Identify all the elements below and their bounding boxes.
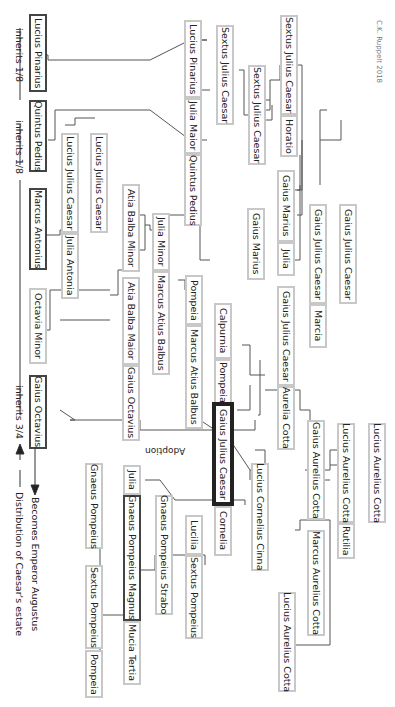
person-cornelia: Cornelia [214,506,232,556]
person-marcus-aurelius-cotta: Marcus Aurelius Cotta [307,530,325,636]
person-sextus-julius-caesar-3: Sextus Julius Caesar [216,25,234,125]
person-gnaeus-pompeius: Gnaeus Pompeius [85,463,103,549]
person-lucius-aurelius-cotta-3: Lucius Aurelius Cotta [278,592,296,692]
person-gaius-marius-2: Gaius Marius [247,208,265,280]
person-horatio: Horatio [280,115,298,157]
person-lucilia: Lucilia [185,515,203,555]
person-atia-balba-minor: Atia Balba Minor [122,184,140,272]
person-calpurnia: Calpurnia [214,303,232,359]
person-lucius-julius-caesar-2: Lucius Julius Caesar [61,133,79,233]
person-sextus-pompeius-2: Sextus Pompeius [85,565,103,649]
person-atia-balba-maior: Atia Balba Maior [122,277,140,365]
person-octavia-minor: Octavia Minor [29,288,47,364]
person-julia-antonia: Julia Antonia [61,233,79,299]
heir-gaius-octavius: Gaius Octavius [29,375,47,449]
person-gnaeus-pompeius-magnus: Gnaeus Pompeius Magnus [123,495,141,621]
person-gaius-julius-caesar-dictator: Gaius Julius Caesar [212,402,234,506]
person-lucius-aurelius-cotta-1: Lucius Aurelius Cotta [368,423,386,523]
person-lucius-pinarius-1: Lucius Pinarius [184,20,202,98]
person-gaius-julius-caesar-grandfather: Gaius Julius Caesar [339,204,357,304]
person-marcus-atius-balbus-2: Marcus Atius Balbus [185,325,203,429]
person-mucia-tertia: Mucia Tertia [123,621,141,685]
legend-becomes-augustus: Becomes Emperor Augustus [30,497,40,631]
person-sextus-pompeius-1: Sextus Pompeius [185,555,203,639]
person-gnaeus-pompeius-strabo: Gnaeus Pompeius Strabo [155,495,173,615]
person-gaius-julius-caesar-father: Gaius Julius Caesar [309,204,327,304]
heir-lucius-pinarius: Lucius Pinarius [29,14,47,92]
person-quintus-pedius-1: Quintus Pedius [184,154,202,226]
person-sextus-julius-caesar-1: Sextus Julius Caesar [280,15,298,115]
person-julia-2: Julia [123,465,141,495]
inherits-label-octavius: inherits 3/4 [14,385,24,439]
inherits-label-pedius: inherits 1/8 [14,120,24,174]
heir-quintus-pedius: Quintus Pedius [29,100,47,172]
heir-marcus-antonius: Marcus Antonius [29,188,47,270]
person-lucius-cornelius-cinna: Lucius Cornelius Cinna [251,463,269,571]
person-marcus-atius-balbus-1: Marcus Atius Balbus [152,271,170,375]
family-tree-diagram: C.K. Ruppelt 2018 Sextus Julius Caesar H… [0,0,395,707]
person-julia-maior: Julia Maior [184,98,202,154]
person-gaius-marius-1: Gaius Marius [277,170,295,242]
person-gaius-octavius-father: Gaius Octavius [122,365,140,441]
person-sextus-julius-caesar-2: Sextus Julius Caesar [248,65,266,165]
legend-estate-distribution: Distribution of Caesar's estate [14,492,24,636]
person-aurelia-cotta: Aurelia Cotta [277,386,295,450]
person-lucius-julius-caesar-1: Lucius Julius Caesar [90,133,108,233]
person-rutilia: Rutilia [337,523,355,559]
person-pompeia-2: Pompeia [214,359,232,405]
person-pompeia-3: Pompeia [85,650,103,698]
person-lucius-aurelius-cotta-2: Lucius Aurelius Cotta [337,423,355,523]
inherits-label-pinarius: inherits 1/8 [14,28,24,82]
person-julia: Julia [277,242,295,276]
person-gaius-julius-caesar-3: Gaius Julius Caesar [277,286,295,386]
credit-text: C.K. Ruppelt 2018 [375,20,383,80]
person-julia-minor: Julia Minor [152,213,170,271]
person-gaius-aurelius-cotta: Gaius Aurelius Cotta [307,420,325,520]
person-pompeia-1: Pompeia [185,275,203,325]
person-marcia: Marcia [309,304,327,348]
adoption-label: Adoption [145,446,185,456]
